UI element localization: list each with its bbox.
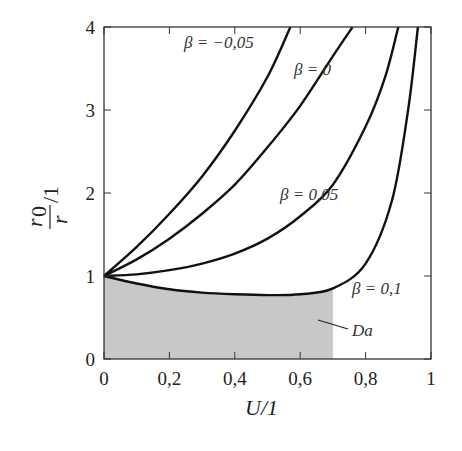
x-axis-title: U/1 — [245, 395, 278, 420]
y-tick-labels: 01234 — [86, 17, 96, 370]
svg-text:r: r — [22, 218, 47, 227]
label-da: Da — [351, 321, 373, 340]
y-tick-label: 3 — [86, 100, 96, 121]
curve-beta-0-1 — [104, 27, 418, 295]
curves — [104, 27, 418, 295]
y-tick-label: 1 — [86, 266, 96, 287]
svg-text:/1: /1 — [38, 186, 63, 203]
label-beta-0: β = 0 — [293, 60, 331, 79]
x-tick-label: 0,6 — [288, 368, 312, 389]
label-beta-minus-0-05: β = −0,05 — [183, 33, 254, 52]
chart: 00,20,40,60,81 01234 β = −0,05 β = 0 β =… — [0, 0, 462, 451]
x-tick-labels: 00,20,40,60,81 — [99, 368, 436, 389]
label-beta-0-05: β = 0,05 — [279, 185, 338, 204]
x-tick-label: 1 — [426, 368, 436, 389]
curve-beta-0-05 — [104, 27, 398, 276]
y-tick-label: 4 — [86, 17, 96, 38]
curve-beta-minus-0-05 — [104, 27, 290, 276]
x-tick-label: 0,2 — [158, 368, 182, 389]
x-tick-label: 0 — [99, 368, 109, 389]
svg-text:r: r — [47, 215, 72, 224]
x-tick-label: 0,4 — [223, 368, 247, 389]
da-shaded-region — [104, 276, 333, 359]
y-axis-title: r 0 r /1 — [22, 186, 72, 229]
svg-text:0: 0 — [26, 206, 51, 217]
label-beta-0-1: β = 0,1 — [351, 279, 402, 298]
x-tick-label: 0,8 — [354, 368, 378, 389]
y-tick-label: 0 — [86, 349, 96, 370]
y-tick-label: 2 — [86, 183, 96, 204]
